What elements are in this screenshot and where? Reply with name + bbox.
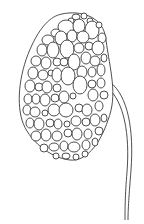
cell-oval	[62, 153, 70, 159]
cell-oval	[92, 41, 104, 55]
cell-oval	[54, 119, 62, 129]
cell-oval	[31, 131, 41, 141]
cell-oval	[95, 127, 103, 135]
cell-oval	[90, 114, 100, 126]
cell-oval	[38, 70, 48, 80]
cell-oval	[95, 101, 103, 111]
cell-oval	[46, 119, 54, 127]
cell-oval	[60, 141, 68, 151]
cell-oval	[34, 118, 44, 130]
cell-oval	[60, 58, 68, 66]
cell-oval	[42, 110, 48, 116]
cell-oval	[68, 142, 80, 152]
cell-oval	[88, 80, 96, 88]
cell-oval	[64, 129, 72, 137]
cell-oval	[30, 107, 40, 117]
cell-oval	[32, 94, 40, 104]
cell-oval	[74, 43, 84, 53]
cell-oval	[42, 81, 52, 93]
cell-oval	[100, 91, 108, 99]
cell-oval	[64, 121, 70, 127]
bud-illustration	[0, 0, 144, 224]
cell-oval	[71, 116, 81, 126]
cell-oval	[77, 31, 89, 43]
cell-oval	[101, 114, 107, 122]
cell-oval	[41, 129, 51, 141]
cell-oval	[49, 143, 59, 151]
cell-oval	[82, 140, 90, 150]
cell-oval	[90, 56, 100, 66]
cell-oval	[88, 67, 96, 77]
cell-oval	[25, 80, 35, 92]
illustration-canvas	[0, 0, 144, 224]
cell-oval	[53, 153, 59, 159]
cell-oval	[48, 104, 60, 116]
cell-oval	[73, 154, 79, 160]
cell-oval	[52, 68, 62, 82]
cell-oval	[51, 94, 59, 102]
stem-line	[110, 82, 132, 220]
cell-oval	[82, 151, 88, 157]
cell-oval	[40, 94, 50, 106]
cell-oval	[47, 42, 59, 58]
cell-oval	[28, 67, 38, 79]
cell-oval	[88, 89, 98, 101]
cell-oval	[92, 138, 98, 146]
cell-oval	[101, 54, 107, 62]
cell-oval	[82, 104, 92, 116]
cell-oval	[84, 129, 92, 139]
cell-oval	[40, 144, 48, 152]
cell-oval	[81, 13, 87, 19]
cell-oval	[52, 131, 62, 141]
cell-oval	[53, 84, 61, 92]
cell-oval	[96, 22, 102, 28]
cell-oval	[59, 91, 69, 103]
cell-oval	[70, 93, 76, 99]
cell-oval	[72, 128, 82, 140]
cell-oval	[81, 52, 91, 64]
cell-oval	[82, 118, 90, 126]
cell-oval	[24, 94, 32, 104]
cell-oval	[97, 78, 105, 88]
cell-oval	[31, 56, 41, 66]
cell-oval	[37, 44, 47, 56]
cell-oval	[73, 76, 87, 94]
cell-oval	[97, 64, 105, 76]
cell-oval	[41, 57, 51, 69]
cell-oval	[59, 103, 73, 117]
cell-oval	[26, 118, 34, 128]
